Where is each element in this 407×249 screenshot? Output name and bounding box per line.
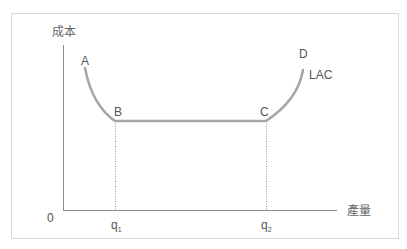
q2-subscript: 2 <box>268 226 272 233</box>
point-b-label: B <box>114 106 122 118</box>
point-d-label: D <box>299 48 308 60</box>
origin-label: 0 <box>47 212 54 224</box>
q1-subscript: 1 <box>118 226 122 233</box>
point-c-label: C <box>260 106 269 118</box>
curve-label-lac: LAC <box>309 69 332 81</box>
x-axis-label: 產量 <box>347 205 371 217</box>
q2-base: q <box>261 218 268 232</box>
point-a-label: A <box>81 55 89 67</box>
q2-tick-label: q2 <box>261 219 272 233</box>
y-axis-label: 成本 <box>52 26 76 38</box>
q1-base: q <box>111 218 118 232</box>
q1-tick-label: q1 <box>111 219 122 233</box>
